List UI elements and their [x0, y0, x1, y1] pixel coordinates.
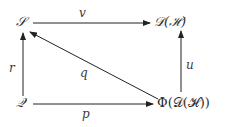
node-Q: 𝒬	[16, 96, 25, 109]
node-D-of-H: 𝒟(ℋ)	[154, 15, 186, 28]
arrow-q	[30, 32, 158, 99]
label-p: p	[82, 108, 90, 120]
label-u: u	[186, 59, 194, 71]
label-q: q	[80, 67, 88, 79]
node-S: 𝒮	[16, 15, 26, 28]
node-Phi-D-of-H: Φ(𝒟(ℋ))	[157, 96, 210, 109]
label-v: v	[79, 7, 86, 19]
label-r: r	[9, 62, 15, 74]
commutative-diagram: 𝒮 𝒟(ℋ) 𝒬 Φ(𝒟(ℋ)) v r q u p	[0, 0, 235, 127]
